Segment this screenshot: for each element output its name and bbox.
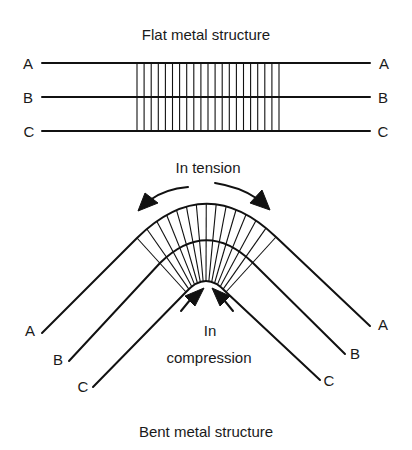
bent-label-a-right: A <box>378 316 388 333</box>
bent-radial-line <box>157 221 192 286</box>
flat-label-b-right: B <box>378 89 388 106</box>
flat-label-a-right: A <box>379 55 389 72</box>
tension-label: In tension <box>175 159 240 176</box>
bent-label-a-left: A <box>25 322 35 339</box>
bent-structure-title: Bent metal structure <box>139 423 273 440</box>
bent-layer-b-line <box>69 240 345 361</box>
flat-label-c-right: C <box>378 123 389 140</box>
bent-radial-lines <box>137 204 276 292</box>
bent-label-b-right: B <box>350 345 360 362</box>
compression-arrow-left <box>181 288 204 311</box>
bent-label-b-left: B <box>53 351 63 368</box>
bent-label-c-left: C <box>78 378 89 395</box>
compression-label-line2: compression <box>166 349 251 366</box>
bent-structure: In tension In compression A B <box>25 159 388 440</box>
flat-structure: Flat metal structure A B C A B C <box>23 26 389 140</box>
bent-label-c-right: C <box>324 372 335 389</box>
bent-radial-line <box>209 204 216 281</box>
bent-radial-line <box>220 221 256 287</box>
compression-arrow-left-shaft <box>181 300 190 311</box>
compression-label-line1: In <box>204 322 217 339</box>
flat-label-b-left: B <box>23 89 33 106</box>
bent-radial-line <box>223 228 266 289</box>
flat-label-c-left: C <box>24 123 35 140</box>
bent-radial-line <box>196 205 203 282</box>
bent-radial-line <box>147 229 189 289</box>
flat-structure-title: Flat metal structure <box>142 26 270 43</box>
metal-bending-diagram: Flat metal structure A B C A B C In tens… <box>0 0 412 450</box>
tension-arrow-right-shaft <box>215 183 256 198</box>
flat-label-a-left: A <box>23 55 33 72</box>
tension-arrow-left <box>138 187 188 211</box>
tension-arrow-left-shaft <box>150 187 188 200</box>
compression-arrow-right <box>212 288 233 311</box>
compression-arrow-right-shaft <box>224 300 233 311</box>
arrow-head-icon <box>250 190 270 210</box>
